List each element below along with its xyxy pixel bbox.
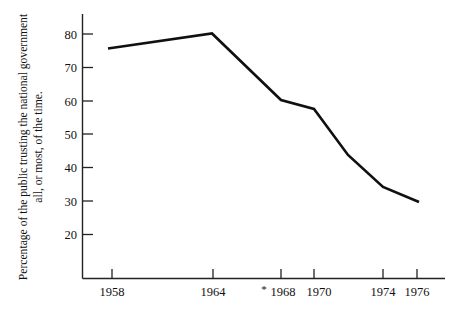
y-tick-label-30: 30	[65, 195, 78, 209]
trust-series-line	[108, 34, 419, 203]
x-tick-label-1968: 1968	[271, 285, 296, 299]
y-axis-ticks: 80 70 60 50 40 30 20	[65, 28, 94, 243]
y-tick-label-40: 40	[65, 161, 78, 175]
y-tick-label-70: 70	[65, 61, 78, 75]
x-axis-ticks: 1958 1964 * 1968 1970 1974 1976	[100, 269, 430, 299]
x-tick-label-1974: 1974	[371, 285, 397, 299]
y-tick-label-50: 50	[65, 128, 78, 142]
chart-page: Percentage of the public trusting the na…	[0, 0, 458, 314]
y-tick-label-60: 60	[65, 95, 78, 109]
x-tick-label-1976: 1976	[405, 285, 430, 299]
x-tick-label-1964: 1964	[201, 285, 227, 299]
x-tick-label-1958: 1958	[100, 285, 125, 299]
x-tick-label-1970: 1970	[307, 285, 332, 299]
trust-in-government-line-chart: Percentage of the public trusting the na…	[0, 0, 458, 314]
y-tick-label-80: 80	[65, 28, 78, 42]
y-axis-title-line-2: all, or most, of the time.	[32, 91, 45, 203]
y-tick-label-20: 20	[65, 228, 78, 242]
footnote-asterisk: *	[261, 283, 267, 295]
y-axis-title-line-1: Percentage of the public trusting the na…	[17, 13, 30, 280]
